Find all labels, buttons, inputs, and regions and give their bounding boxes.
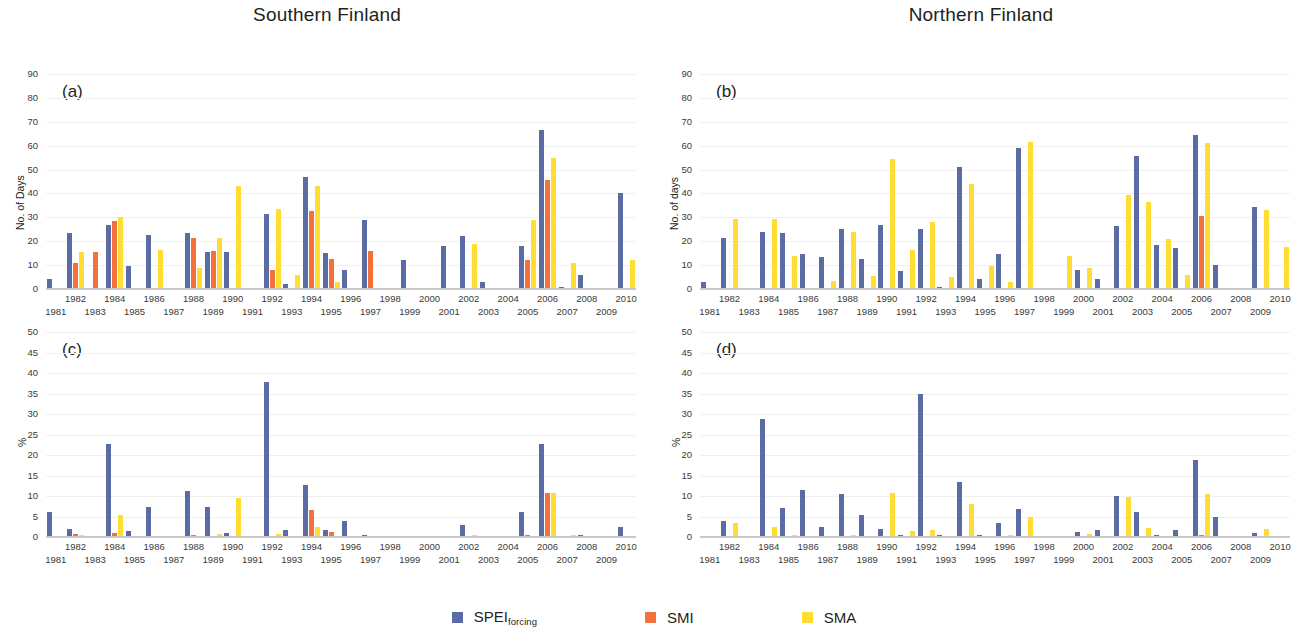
x-tick-label: 2001 bbox=[432, 555, 466, 565]
bar-group bbox=[262, 332, 282, 537]
x-tick-label: 2008 bbox=[1224, 294, 1258, 304]
x-tick-label: 1982 bbox=[59, 294, 93, 304]
x-tick-label: 1983 bbox=[78, 307, 112, 317]
bar-sma bbox=[1067, 256, 1072, 289]
x-tick-label: 2000 bbox=[1067, 542, 1101, 552]
x-tick-label: 2009 bbox=[1244, 555, 1278, 565]
bar-group bbox=[1113, 332, 1133, 537]
bar-smi bbox=[1199, 216, 1204, 289]
x-tick-label: 1994 bbox=[949, 294, 983, 304]
bar-spei bbox=[918, 394, 923, 538]
bar-sma bbox=[79, 252, 84, 289]
bar-group bbox=[341, 332, 361, 537]
bar-spei bbox=[47, 512, 52, 537]
bar-sma bbox=[1028, 517, 1033, 538]
y-tick-label: 5 bbox=[672, 512, 692, 522]
bar-sma bbox=[551, 158, 556, 289]
bar-group bbox=[164, 74, 184, 289]
x-tick-label: 1988 bbox=[177, 542, 211, 552]
bar-spei bbox=[721, 238, 726, 289]
x-tick-label: 1992 bbox=[255, 542, 289, 552]
x-tick-label: 1985 bbox=[118, 555, 152, 565]
y-tick-label: 10 bbox=[18, 260, 38, 270]
y-tick-label: 40 bbox=[672, 368, 692, 378]
x-tick-label: 1992 bbox=[255, 294, 289, 304]
bar-group bbox=[1034, 332, 1054, 537]
bar-smi bbox=[191, 238, 196, 289]
bar-group bbox=[936, 74, 956, 289]
x-tick-label: 1993 bbox=[929, 555, 963, 565]
bar-sma bbox=[733, 523, 738, 537]
bar-group bbox=[361, 74, 381, 289]
bar-spei bbox=[957, 167, 962, 289]
y-tick-label: 10 bbox=[672, 260, 692, 270]
x-tick-label: 1998 bbox=[1027, 294, 1061, 304]
x-tick-label: 1990 bbox=[870, 542, 904, 552]
bar-group bbox=[975, 74, 995, 289]
bar-smi bbox=[270, 270, 275, 289]
x-tick-label: 2005 bbox=[1165, 307, 1199, 317]
bar-sma bbox=[989, 266, 994, 289]
y-tick-label: 0 bbox=[672, 284, 692, 294]
bar-sma bbox=[630, 260, 635, 289]
y-tick-label: 20 bbox=[18, 236, 38, 246]
x-tick-label: 1997 bbox=[1008, 307, 1042, 317]
x-tick-label: 1996 bbox=[334, 294, 368, 304]
bar-spei bbox=[898, 271, 903, 289]
bar-spei bbox=[1213, 265, 1218, 289]
y-tick-label: 80 bbox=[18, 93, 38, 103]
y-tick-label: 15 bbox=[18, 471, 38, 481]
legend-label-spei: SPEIforcing bbox=[474, 608, 537, 627]
x-tick-label: 1985 bbox=[772, 555, 806, 565]
bar-sma bbox=[890, 159, 895, 289]
bar-sma bbox=[1205, 494, 1210, 537]
bar-spei bbox=[362, 220, 367, 289]
bar-group bbox=[262, 74, 282, 289]
x-tick-label: 2006 bbox=[1185, 542, 1219, 552]
x-tick-label: 1990 bbox=[216, 294, 250, 304]
bar-group bbox=[1113, 74, 1133, 289]
bar-sma bbox=[1166, 239, 1171, 289]
bar-spei bbox=[578, 275, 583, 289]
x-tick-label: 2001 bbox=[1086, 307, 1120, 317]
bar-group bbox=[1192, 74, 1212, 289]
bar-group bbox=[85, 332, 105, 537]
bar-group bbox=[616, 74, 636, 289]
bar-sma bbox=[276, 209, 281, 289]
bar-group bbox=[400, 332, 420, 537]
x-tick-label: 2005 bbox=[511, 555, 545, 565]
bar-group bbox=[538, 332, 558, 537]
bar-group bbox=[498, 74, 518, 289]
bar-group bbox=[380, 332, 400, 537]
x-tick-label: 2009 bbox=[590, 555, 624, 565]
bar-group bbox=[538, 74, 558, 289]
y-tick-label: 0 bbox=[18, 532, 38, 542]
bar-sma bbox=[1185, 275, 1190, 289]
bar-group bbox=[1093, 74, 1113, 289]
bar-spei bbox=[539, 444, 544, 537]
bar-sma bbox=[930, 222, 935, 289]
legend-item-sma: SMA bbox=[802, 609, 857, 626]
bar-spei bbox=[342, 270, 347, 289]
bar-spei bbox=[996, 254, 1001, 289]
bar-spei bbox=[1154, 245, 1159, 289]
bar-group bbox=[877, 74, 897, 289]
bar-group bbox=[243, 74, 263, 289]
bar-group bbox=[857, 332, 877, 537]
y-tick-label: 10 bbox=[672, 491, 692, 501]
chart-panel-a: (a)No. of Days01020304050607080901981198… bbox=[0, 30, 654, 330]
x-tick-label: 2004 bbox=[491, 294, 525, 304]
bar-group bbox=[223, 332, 243, 537]
x-tick-label: 1984 bbox=[98, 294, 132, 304]
y-tick-label: 25 bbox=[672, 430, 692, 440]
bar-group bbox=[1034, 74, 1054, 289]
bar-spei bbox=[146, 507, 151, 537]
bar-group bbox=[897, 332, 917, 537]
bar-group bbox=[105, 74, 125, 289]
bar-smi bbox=[368, 251, 373, 289]
bar-sma bbox=[571, 263, 576, 289]
bar-sma bbox=[236, 498, 241, 537]
x-tick-label: 2003 bbox=[472, 307, 506, 317]
y-tick-label: 5 bbox=[18, 512, 38, 522]
x-tick-label: 2005 bbox=[511, 307, 545, 317]
